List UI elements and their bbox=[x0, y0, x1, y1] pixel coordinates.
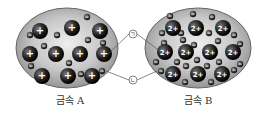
cation: 2+ bbox=[165, 20, 181, 36]
metal-b: 2+2+2+2+2+2+2+2+2+2+ bbox=[145, 8, 251, 88]
electron bbox=[66, 60, 72, 66]
svg-text:2+: 2+ bbox=[228, 49, 239, 57]
electron bbox=[99, 68, 105, 74]
cation: + bbox=[60, 68, 76, 84]
electron bbox=[215, 38, 221, 44]
electron bbox=[78, 71, 84, 77]
electron bbox=[204, 63, 210, 69]
electron bbox=[174, 59, 180, 65]
electron bbox=[194, 57, 200, 63]
electron bbox=[100, 40, 106, 46]
cation: 2+ bbox=[188, 20, 204, 36]
electron bbox=[85, 37, 91, 43]
cation: 2+ bbox=[225, 44, 241, 60]
svg-text:+: + bbox=[26, 48, 34, 59]
svg-text:2+: 2+ bbox=[168, 25, 179, 33]
electron bbox=[158, 68, 164, 74]
metal-a: ++++++++++ bbox=[16, 8, 118, 88]
electron bbox=[153, 59, 159, 65]
svg-text:+: + bbox=[88, 70, 96, 81]
electron bbox=[208, 79, 214, 85]
svg-text:2+: 2+ bbox=[205, 49, 216, 57]
electron bbox=[167, 13, 173, 19]
electron bbox=[28, 63, 34, 69]
cation: + bbox=[64, 20, 80, 36]
cation: + bbox=[92, 23, 108, 39]
electron bbox=[54, 32, 60, 38]
svg-text:2+: 2+ bbox=[218, 25, 229, 33]
svg-text:+: + bbox=[64, 70, 72, 81]
electron bbox=[206, 30, 212, 36]
cation: 2+ bbox=[214, 66, 230, 82]
cation: + bbox=[32, 23, 48, 39]
electron bbox=[237, 61, 243, 67]
cation: + bbox=[34, 68, 50, 84]
cation: 2+ bbox=[215, 20, 231, 36]
svg-text:ㄴ: ㄴ bbox=[130, 76, 136, 83]
cation: 2+ bbox=[165, 66, 181, 82]
electron bbox=[159, 30, 165, 36]
cation: 2+ bbox=[190, 66, 206, 82]
cation: + bbox=[96, 46, 112, 62]
electron bbox=[190, 11, 196, 17]
svg-text:ㄱ: ㄱ bbox=[130, 30, 136, 37]
electron bbox=[84, 14, 90, 20]
cation: + bbox=[22, 46, 38, 62]
svg-text:2+: 2+ bbox=[160, 49, 171, 57]
electron bbox=[180, 37, 186, 43]
electron bbox=[183, 63, 189, 69]
metal-a-label: 금속 A bbox=[56, 95, 85, 106]
cation: + bbox=[48, 46, 64, 62]
metal-bonding-diagram: ++++++++++ 2+2+2+2+2+2+2+2+2+2+ ㄱㄴ 금속 A … bbox=[0, 0, 262, 115]
electron bbox=[41, 43, 47, 49]
marker-b: ㄴ bbox=[106, 71, 157, 84]
svg-text:+: + bbox=[100, 48, 108, 59]
electron bbox=[231, 67, 237, 73]
svg-text:2+: 2+ bbox=[181, 49, 192, 57]
svg-text:2+: 2+ bbox=[193, 71, 204, 79]
cation: + bbox=[84, 68, 100, 84]
cation: 2+ bbox=[202, 44, 218, 60]
electron bbox=[209, 14, 215, 20]
cation: 2+ bbox=[157, 44, 173, 60]
svg-text:+: + bbox=[52, 48, 60, 59]
electron bbox=[182, 79, 188, 85]
svg-text:+: + bbox=[36, 25, 44, 36]
svg-text:+: + bbox=[76, 48, 84, 59]
metal-b-label: 금속 B bbox=[184, 95, 213, 106]
svg-text:2+: 2+ bbox=[168, 71, 179, 79]
electron bbox=[216, 59, 222, 65]
cation: + bbox=[72, 46, 88, 62]
svg-text:+: + bbox=[68, 22, 76, 33]
svg-text:+: + bbox=[96, 25, 104, 36]
cation: 2+ bbox=[178, 44, 194, 60]
electron bbox=[231, 32, 237, 38]
svg-text:+: + bbox=[38, 70, 46, 81]
svg-text:2+: 2+ bbox=[217, 71, 228, 79]
svg-text:2+: 2+ bbox=[191, 25, 202, 33]
